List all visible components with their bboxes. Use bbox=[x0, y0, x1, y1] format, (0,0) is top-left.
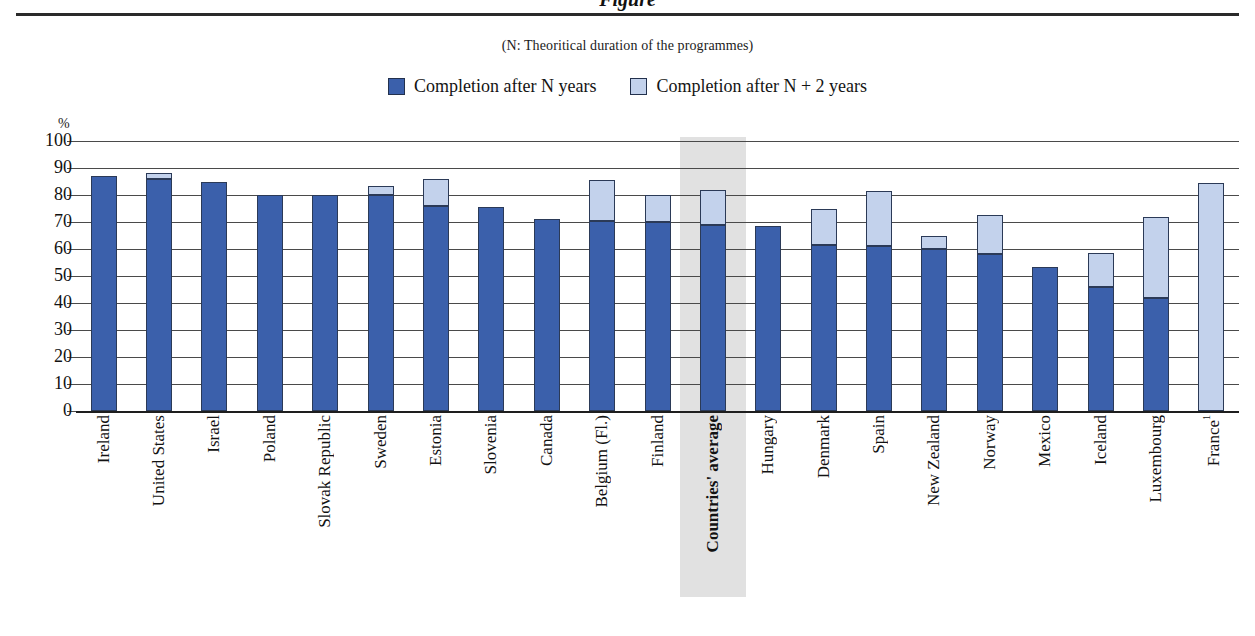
bar-segment-n-years[interactable] bbox=[423, 206, 449, 411]
bar-column[interactable] bbox=[811, 141, 837, 411]
bar-segment-n-years[interactable] bbox=[921, 249, 947, 411]
bar-column[interactable] bbox=[1088, 141, 1114, 411]
bar-segment-n-plus-2-years[interactable] bbox=[921, 236, 947, 250]
header-rule bbox=[16, 13, 1239, 16]
chart-subtitle: (N: Theoritical duration of the programm… bbox=[0, 38, 1255, 54]
bar-column[interactable] bbox=[257, 141, 283, 411]
x-axis-label-mexico: Mexico bbox=[1036, 415, 1053, 467]
bar-group bbox=[76, 141, 1239, 411]
bar-column[interactable] bbox=[201, 141, 227, 411]
bar-segment-n-years[interactable] bbox=[534, 219, 560, 411]
x-axis-label-united-states: United States bbox=[150, 415, 167, 506]
x-axis-label-iceland: Iceland bbox=[1092, 415, 1109, 465]
y-tick-label-90: 90 bbox=[28, 157, 72, 178]
bar-segment-n-years[interactable] bbox=[312, 195, 338, 411]
y-tick-label-0: 0 bbox=[28, 400, 72, 421]
bar-column[interactable] bbox=[755, 141, 781, 411]
bar-segment-n-plus-2-years[interactable] bbox=[589, 180, 615, 221]
y-tick-label-100: 100 bbox=[28, 130, 72, 151]
chart-title-clip: Figure bbox=[0, 0, 1255, 14]
y-tick-label-40: 40 bbox=[28, 292, 72, 313]
bar-segment-n-years[interactable] bbox=[201, 182, 227, 412]
x-axis-label-poland: Poland bbox=[261, 415, 278, 462]
bar-column[interactable] bbox=[91, 141, 117, 411]
bar-segment-n-years[interactable] bbox=[91, 176, 117, 411]
bar-column[interactable] bbox=[478, 141, 504, 411]
x-axis-label-spain: Spain bbox=[870, 415, 887, 454]
bar-segment-n-years[interactable] bbox=[811, 245, 837, 411]
bar-column[interactable] bbox=[645, 141, 671, 411]
y-tick-label-60: 60 bbox=[28, 238, 72, 259]
x-axis-label-finland: Finland bbox=[649, 415, 666, 467]
bar-column[interactable] bbox=[312, 141, 338, 411]
legend-label-n-years: Completion after N years bbox=[414, 76, 596, 97]
x-axis-label-canada: Canada bbox=[538, 415, 555, 466]
bar-segment-n-years[interactable] bbox=[589, 221, 615, 411]
bar-segment-n-plus-2-years[interactable] bbox=[811, 209, 837, 245]
legend-item-n-years[interactable]: Completion after N years bbox=[388, 76, 596, 97]
bar-segment-n-years[interactable] bbox=[257, 195, 283, 411]
y-tick-label-20: 20 bbox=[28, 346, 72, 367]
x-axis-label-slovenia: Slovenia bbox=[482, 415, 499, 475]
bar-segment-n-years[interactable] bbox=[1032, 267, 1058, 411]
bar-segment-n-years[interactable] bbox=[478, 207, 504, 411]
bar-column[interactable] bbox=[921, 141, 947, 411]
x-axis-label-countries-average: Countries' average bbox=[704, 415, 721, 552]
bar-segment-n-years[interactable] bbox=[1143, 298, 1169, 411]
legend-swatch-n-years bbox=[388, 78, 405, 95]
bar-segment-n-years[interactable] bbox=[645, 222, 671, 411]
chart-legend: Completion after N years Completion afte… bbox=[0, 76, 1255, 97]
bar-column[interactable] bbox=[368, 141, 394, 411]
x-axis-label-ireland: Ireland bbox=[95, 415, 112, 463]
bar-column[interactable] bbox=[1198, 141, 1224, 411]
bar-segment-n-plus-2-years[interactable] bbox=[1143, 217, 1169, 298]
bar-column[interactable] bbox=[866, 141, 892, 411]
y-tick-label-70: 70 bbox=[28, 211, 72, 232]
y-tick-label-50: 50 bbox=[28, 265, 72, 286]
legend-item-n-plus-2-years[interactable]: Completion after N + 2 years bbox=[630, 76, 867, 97]
x-axis-label-luxembourg: Luxembourg bbox=[1147, 415, 1164, 503]
x-axis-label-estonia: Estonia bbox=[427, 415, 444, 466]
bar-segment-n-years[interactable] bbox=[700, 225, 726, 411]
y-tick-label-10: 10 bbox=[28, 373, 72, 394]
bar-segment-n-plus-2-years[interactable] bbox=[423, 179, 449, 206]
x-axis-label-france: France1 bbox=[1202, 415, 1222, 466]
x-axis-label-denmark: Denmark bbox=[815, 415, 832, 478]
bar-segment-n-years[interactable] bbox=[755, 226, 781, 411]
bar-column[interactable] bbox=[977, 141, 1003, 411]
bar-segment-n-years[interactable] bbox=[368, 195, 394, 411]
x-axis-label-hungary: Hungary bbox=[759, 415, 776, 474]
bar-column[interactable] bbox=[589, 141, 615, 411]
page-title: Figure bbox=[0, 0, 1255, 11]
bar-segment-n-years[interactable] bbox=[866, 246, 892, 411]
legend-label-n-plus-2-years: Completion after N + 2 years bbox=[656, 76, 867, 97]
bar-column[interactable] bbox=[534, 141, 560, 411]
x-axis-label-new-zealand: New Zealand bbox=[925, 415, 942, 506]
bar-segment-n-years[interactable] bbox=[146, 179, 172, 411]
plot-area: 1009080706050403020100 bbox=[76, 141, 1239, 411]
bar-segment-n-plus-2-years[interactable] bbox=[645, 195, 671, 222]
x-axis-label-belgium-fl: Belgium (Fl.) bbox=[593, 415, 610, 508]
bar-segment-n-years[interactable] bbox=[1088, 287, 1114, 411]
legend-swatch-n-plus-2-years bbox=[630, 78, 647, 95]
bar-segment-n-plus-2-years[interactable] bbox=[1088, 253, 1114, 287]
bar-segment-n-years[interactable] bbox=[977, 254, 1003, 411]
bar-segment-n-plus-2-years[interactable] bbox=[977, 215, 1003, 254]
bar-segment-n-plus-2-years[interactable] bbox=[700, 190, 726, 225]
bar-segment-n-plus-2-years[interactable] bbox=[368, 186, 394, 195]
bar-segment-n-plus-2-years[interactable] bbox=[866, 191, 892, 246]
gridline-0 bbox=[76, 411, 1239, 413]
x-axis-category-labels: IrelandUnited StatesIsraelPolandSlovak R… bbox=[76, 415, 1239, 615]
x-axis-label-norway: Norway bbox=[981, 415, 998, 470]
x-axis-label-sweden: Sweden bbox=[372, 415, 389, 469]
bar-column[interactable] bbox=[423, 141, 449, 411]
x-axis-label-israel: Israel bbox=[205, 415, 222, 453]
bar-column[interactable] bbox=[146, 141, 172, 411]
bar-column[interactable] bbox=[1032, 141, 1058, 411]
x-axis-label-slovak-republic: Slovak Republic bbox=[316, 415, 333, 528]
bar-segment-n-plus-2-years[interactable] bbox=[1198, 183, 1224, 411]
y-tick-label-80: 80 bbox=[28, 184, 72, 205]
y-tick-label-30: 30 bbox=[28, 319, 72, 340]
bar-column[interactable] bbox=[700, 141, 726, 411]
bar-column[interactable] bbox=[1143, 141, 1169, 411]
